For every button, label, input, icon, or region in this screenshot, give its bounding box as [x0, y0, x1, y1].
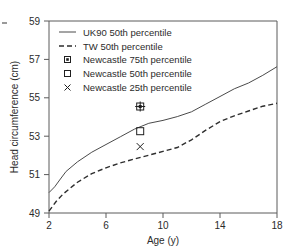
chart-figure: 49 51 53 55 57 59 2 6 10 14 18 Age (y) H…: [0, 0, 295, 250]
y-tick-label-59: 59: [29, 16, 41, 27]
x-tick-label-18: 18: [271, 220, 283, 231]
x-axis-tick-labels: 2 6 10 14 18: [46, 220, 283, 231]
chart-legend: UK90 50th percentile TW 50th percentile …: [59, 27, 192, 94]
y-axis-tick-labels: 49 51 53 55 57 59: [29, 16, 41, 219]
x-tick-label-6: 6: [103, 220, 109, 231]
y-tick-label-55: 55: [29, 92, 41, 103]
y-tick-label-53: 53: [29, 131, 41, 142]
scan-artifact-mark: [2, 22, 7, 24]
legend-label-newcastle-50th: Newcastle 50th percentile: [83, 68, 192, 79]
y-tick-label-57: 57: [29, 54, 41, 65]
legend-label-newcastle-25th: Newcastle 25th percentile: [83, 82, 192, 93]
legend-swatch-open-square-icon: [65, 71, 71, 77]
y-tick-label-49: 49: [29, 208, 41, 219]
x-tick-label-10: 10: [157, 220, 169, 231]
series-tw-50th-line: [49, 103, 277, 211]
marker-newcastle-50th: [137, 128, 144, 135]
y-axis-title: Head circumference (cm): [9, 61, 20, 173]
y-tick-label-51: 51: [29, 169, 41, 180]
x-axis-title: Age (y): [147, 235, 179, 246]
y-axis-ticks: [44, 21, 49, 213]
marker-newcastle-75th: [135, 102, 145, 112]
head-circumference-line-chart: 49 51 53 55 57 59 2 6 10 14 18 Age (y) H…: [0, 0, 295, 250]
legend-label-tw-50th: TW 50th percentile: [83, 41, 163, 52]
legend-label-uk90-50th: UK90 50th percentile: [83, 27, 172, 38]
legend-swatch-asterisk-square-icon: [65, 57, 71, 63]
legend-swatch-cross-icon: [65, 85, 71, 91]
legend-label-newcastle-75th: Newcastle 75th percentile: [83, 54, 192, 65]
x-tick-label-14: 14: [214, 220, 226, 231]
x-axis-ticks: [49, 213, 277, 218]
x-tick-label-2: 2: [46, 220, 52, 231]
marker-newcastle-25th: [137, 143, 144, 150]
